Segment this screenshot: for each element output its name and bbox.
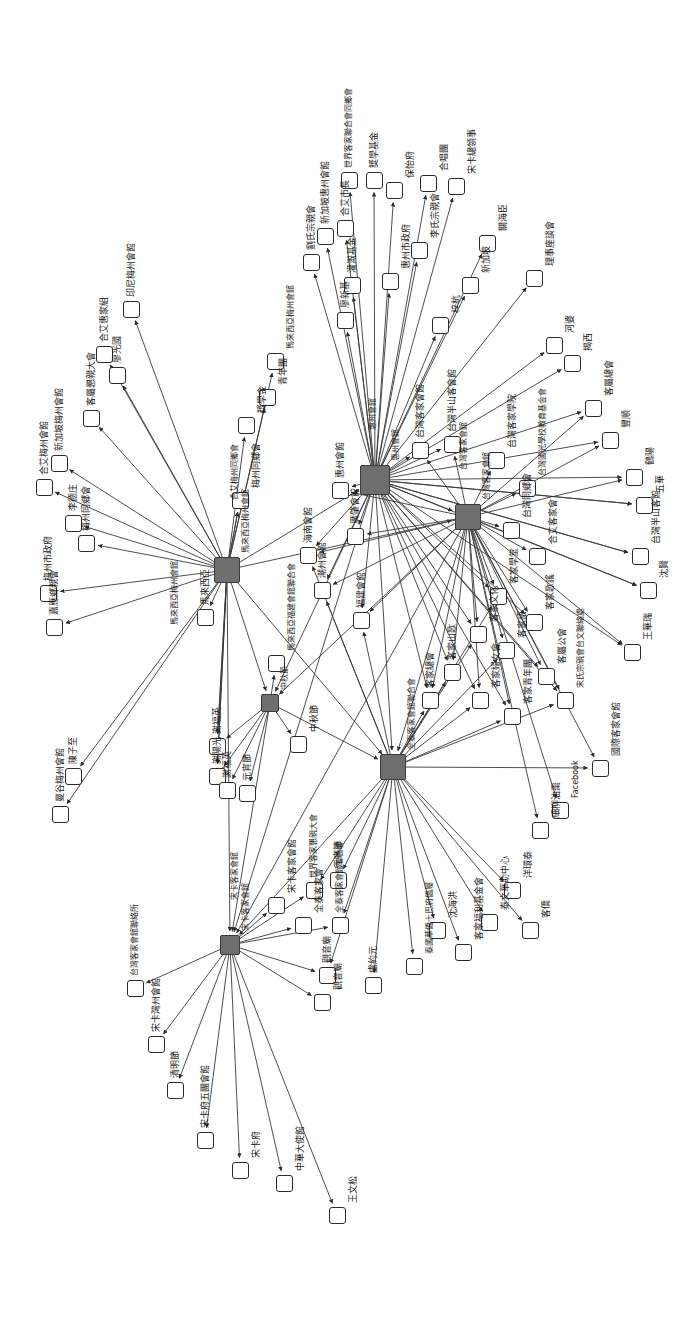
graph-leaf-node[interactable] (109, 367, 126, 384)
graph-node-label: 鶴陽 (646, 447, 656, 465)
graph-leaf-node[interactable] (329, 1207, 346, 1224)
graph-leaf-node[interactable] (295, 917, 312, 934)
graph-leaf-node[interactable] (300, 547, 317, 564)
graph-leaf-node[interactable] (317, 228, 334, 245)
graph-leaf-node[interactable] (624, 644, 641, 661)
graph-leaf-node[interactable] (382, 273, 399, 290)
graph-node-label: 謝福英 (213, 707, 223, 734)
graph-hub-node[interactable] (455, 504, 481, 530)
graph-leaf-node[interactable] (538, 668, 555, 685)
graph-leaf-node[interactable] (365, 977, 382, 994)
graph-leaf-node[interactable] (564, 355, 581, 372)
graph-leaf-node[interactable] (557, 692, 574, 709)
graph-leaf-node[interactable] (503, 522, 520, 539)
graph-node-label: 宋氏宗親會台文聯絡處 (577, 608, 586, 688)
graph-hub-node[interactable] (261, 694, 279, 712)
graph-leaf-node[interactable] (337, 312, 354, 329)
graph-leaf-node[interactable] (444, 436, 461, 453)
graph-leaf-node[interactable] (347, 528, 364, 545)
graph-hub-node[interactable] (360, 465, 390, 495)
graph-leaf-node[interactable] (432, 317, 449, 334)
graph-leaf-node[interactable] (332, 917, 349, 934)
graph-leaf-node[interactable] (406, 958, 423, 975)
graph-node-label: 惠州市政府 (402, 224, 412, 269)
graph-leaf-node[interactable] (526, 270, 543, 287)
graph-leaf-node[interactable] (353, 612, 370, 629)
graph-node-label: 泰文華助中心 (501, 856, 511, 910)
graph-leaf-node[interactable] (366, 172, 383, 189)
graph-leaf-node[interactable] (455, 944, 472, 961)
graph-hub-node[interactable] (380, 754, 406, 780)
graph-leaf-node[interactable] (127, 980, 144, 997)
graph-leaf-node[interactable] (219, 782, 236, 799)
graph-node-label: 揭西 (584, 333, 594, 351)
graph-leaf-node[interactable] (290, 736, 307, 753)
graph-leaf-node[interactable] (83, 410, 100, 427)
graph-node-label: 合艾梅州會館 (40, 421, 50, 475)
graph-leaf-node[interactable] (472, 692, 489, 709)
graph-leaf-node[interactable] (52, 806, 69, 823)
graph-leaf-node[interactable] (232, 1162, 249, 1179)
graph-leaf-node[interactable] (504, 708, 521, 725)
graph-leaf-node[interactable] (314, 994, 331, 1011)
graph-leaf-node[interactable] (640, 582, 657, 599)
graph-leaf-node[interactable] (522, 922, 539, 939)
graph-leaf-node[interactable] (96, 346, 113, 363)
graph-leaf-node[interactable] (332, 482, 349, 499)
graph-node-label: 客家婦女會 (492, 643, 502, 688)
graph-leaf-node[interactable] (470, 626, 487, 643)
graph-edge (99, 427, 218, 560)
graph-leaf-node[interactable] (167, 1082, 184, 1099)
graph-leaf-node[interactable] (592, 760, 609, 777)
graph-node-label: 台灣客家會館聯絡所 (131, 904, 140, 976)
graph-node-label: 獎學金 (258, 386, 268, 413)
graph-hub-node[interactable] (220, 935, 240, 955)
graph-leaf-node[interactable] (314, 582, 331, 599)
graph-leaf-node[interactable] (420, 175, 437, 192)
graph-node-label: 陳子至 (69, 737, 79, 764)
graph-node-label: 宋卡府 (252, 1131, 262, 1158)
graph-leaf-node[interactable] (526, 614, 543, 631)
graph-leaf-node[interactable] (238, 417, 255, 434)
graph-leaf-node[interactable] (444, 664, 461, 681)
graph-leaf-node[interactable] (276, 1175, 293, 1192)
graph-leaf-node[interactable] (585, 400, 602, 417)
graph-leaf-node[interactable] (36, 479, 53, 496)
graph-leaf-node[interactable] (626, 469, 643, 486)
graph-leaf-node[interactable] (46, 619, 63, 636)
graph-leaf-node[interactable] (65, 515, 82, 532)
graph-hub-node[interactable] (214, 557, 240, 583)
graph-edge-cross (389, 484, 628, 552)
graph-leaf-node[interactable] (422, 692, 439, 709)
graph-leaf-node[interactable] (148, 1036, 165, 1053)
graph-edge (400, 778, 483, 911)
graph-leaf-node[interactable] (462, 277, 479, 294)
graph-node-label: 台灣國光學校教育基金會 (539, 388, 548, 476)
graph-leaf-node[interactable] (337, 220, 354, 237)
graph-leaf-node[interactable] (386, 182, 403, 199)
graph-leaf-node[interactable] (412, 442, 429, 459)
graph-leaf-node[interactable] (78, 535, 95, 552)
graph-leaf-node[interactable] (303, 254, 320, 271)
graph-leaf-node[interactable] (636, 497, 653, 514)
graph-leaf-node[interactable] (51, 455, 68, 472)
graph-node-label: 宋卡灣州會館 (152, 978, 162, 1032)
graph-leaf-node[interactable] (411, 242, 428, 259)
graph-leaf-node[interactable] (632, 548, 649, 565)
graph-leaf-node[interactable] (546, 337, 563, 354)
graph-leaf-node[interactable] (65, 768, 82, 785)
graph-node-label: 客家文化 (490, 586, 500, 622)
graph-leaf-node[interactable] (532, 822, 549, 839)
graph-leaf-node[interactable] (197, 1132, 214, 1149)
graph-leaf-node[interactable] (239, 785, 256, 802)
graph-node-label: 台灣客家會館 (416, 384, 426, 438)
graph-leaf-node[interactable] (197, 609, 214, 626)
graph-edge-cross (227, 709, 263, 738)
graph-leaf-node[interactable] (602, 432, 619, 449)
graph-leaf-node[interactable] (448, 178, 465, 195)
graph-node-label: 元宵節 (334, 841, 344, 868)
graph-leaf-node[interactable] (123, 301, 140, 318)
graph-node-label: 沈賢 (660, 560, 670, 578)
graph-leaf-node[interactable] (268, 897, 285, 914)
graph-leaf-node[interactable] (529, 548, 546, 565)
